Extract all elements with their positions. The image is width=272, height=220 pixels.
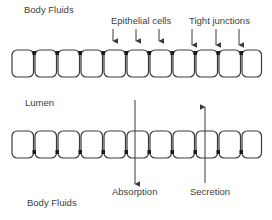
epithelial-cell: [104, 131, 126, 158]
epithelial-cell: [150, 131, 172, 158]
epithelial-cell: [219, 50, 241, 77]
epithelial-cell: [35, 131, 57, 158]
epithelial-cell: [81, 50, 103, 77]
bottom-epithelial-layer: [12, 131, 262, 158]
epithelial-cell: [35, 50, 57, 77]
epithelial-cell: [58, 131, 80, 158]
epithelial-cell: [12, 50, 34, 77]
epithelial-cell: [81, 131, 103, 158]
epithelial-cell: [196, 50, 218, 77]
epithelial-cell: [58, 50, 80, 77]
diagram-graphics: [0, 0, 272, 220]
epithelial-cell: [104, 50, 126, 77]
epithelial-cell: [242, 50, 262, 77]
epithelial-cell: [12, 131, 34, 158]
epithelial-cell: [219, 131, 241, 158]
epithelial-cell: [127, 50, 149, 77]
pointer-arrows: [113, 29, 239, 45]
epithelial-cell: [196, 131, 218, 158]
epithelial-cell: [242, 131, 262, 158]
epithelial-cell: [127, 131, 149, 158]
epithelial-cell: [150, 50, 172, 77]
top-epithelial-layer: [12, 50, 262, 77]
epithelial-cell: [173, 131, 195, 158]
epithelial-cell: [173, 50, 195, 77]
